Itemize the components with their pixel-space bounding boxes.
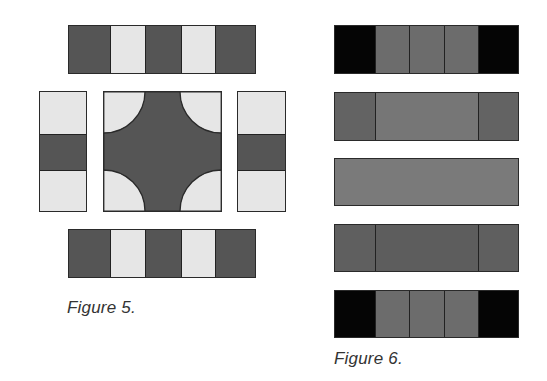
segment-black (335, 26, 375, 73)
figure-6-bar-2 (334, 92, 519, 141)
figure-6-bar-3 (334, 158, 519, 206)
figure-6-bar-5 (334, 290, 519, 338)
segment-light (110, 230, 145, 277)
segment-dark (40, 134, 86, 170)
segment-mid (409, 291, 444, 337)
figure-5-bottom-bar (68, 229, 256, 278)
segment-mid-dark (375, 225, 478, 271)
segment-light (181, 26, 215, 73)
segment-black (478, 291, 518, 337)
segment-mid-dark (335, 93, 375, 140)
segment-mid (375, 291, 409, 337)
figure-5-center-tile (103, 91, 222, 212)
segment-mid-dark (335, 225, 375, 271)
figure-5-caption: Figure 5. (67, 298, 136, 318)
segment-mid (375, 26, 409, 73)
segment-dark (215, 26, 255, 73)
segment-dark (238, 134, 285, 170)
cross-tile-graphic (103, 91, 222, 212)
figure-5-left-bar (39, 91, 87, 212)
segment-mid-dark (478, 225, 518, 271)
segment-light (40, 92, 86, 134)
segment-black (478, 26, 518, 73)
segment-mid-light (375, 93, 478, 140)
figure-6-caption: Figure 6. (334, 349, 403, 369)
segment-mid-light (335, 159, 518, 205)
segment-light (40, 170, 86, 211)
segment-dark (215, 230, 255, 277)
segment-mid-dark (478, 93, 518, 140)
segment-dark (145, 230, 181, 277)
segment-dark (69, 230, 110, 277)
segment-light (181, 230, 215, 277)
segment-mid (444, 291, 478, 337)
segment-mid (444, 26, 478, 73)
segment-black (335, 291, 375, 337)
segment-light (238, 170, 285, 211)
figure-6-bar-1 (334, 25, 519, 74)
figure-5-right-bar (237, 91, 286, 212)
segment-mid (409, 26, 444, 73)
segment-light (238, 92, 285, 134)
figure-6-bar-4 (334, 224, 519, 272)
segment-dark (69, 26, 110, 73)
segment-light (110, 26, 145, 73)
figure-5-top-bar (68, 25, 256, 74)
segment-dark (145, 26, 181, 73)
